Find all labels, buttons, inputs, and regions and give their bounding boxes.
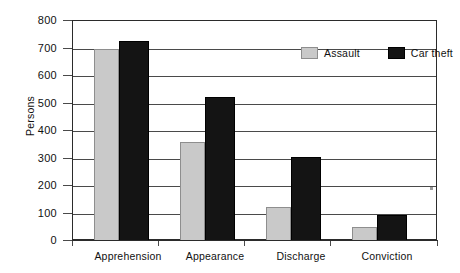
y-tick-mark-700 <box>63 48 72 49</box>
y-tick-label-0: 0 <box>0 235 57 246</box>
y-tick-mark-500 <box>63 103 72 104</box>
y-tick-mark-100 <box>63 213 72 214</box>
y-axis-line <box>72 20 73 241</box>
bar-car-theft-apprehension <box>119 41 149 241</box>
x-tick-mark-3 <box>330 241 331 246</box>
bar-assault-apprehension <box>94 49 119 242</box>
plot-area: Assault Car theft <box>72 20 437 240</box>
x-axis-line <box>72 240 438 241</box>
bar-assault-appearance <box>180 142 205 241</box>
assault-swatch-icon <box>301 47 318 59</box>
x-tick-mark-0 <box>72 241 73 246</box>
y-tick-label-200: 200 <box>0 180 57 191</box>
legend-item-car-theft: Car theft <box>388 47 453 59</box>
y-tick-mark-800 <box>63 20 72 21</box>
scan-artifact-speck <box>430 187 433 190</box>
legend-label-assault: Assault <box>324 47 360 59</box>
x-tick-mark-2 <box>244 241 245 246</box>
y-tick-mark-300 <box>63 158 72 159</box>
x-tick-mark-4 <box>437 241 438 246</box>
legend-item-assault: Assault <box>301 47 360 59</box>
bar-car-theft-discharge <box>291 157 321 241</box>
x-tick-mark-1 <box>158 241 159 246</box>
bar-chart: Assault Car theft 800 700 600 500 400 30… <box>0 0 460 273</box>
bar-car-theft-appearance <box>205 97 235 241</box>
y-tick-label-100: 100 <box>0 208 57 219</box>
y-tick-label-700: 700 <box>0 43 57 54</box>
legend-label-car-theft: Car theft <box>411 47 453 59</box>
y-tick-mark-0 <box>63 240 72 241</box>
y-tick-mark-400 <box>63 130 72 131</box>
car-theft-swatch-icon <box>388 47 405 59</box>
category-label-conviction: Conviction <box>327 250 447 262</box>
y-tick-mark-600 <box>63 75 72 76</box>
legend: Assault Car theft <box>301 44 453 62</box>
y-tick-label-800: 800 <box>0 15 57 26</box>
bar-car-theft-conviction <box>377 215 407 241</box>
y-axis-title: Persons <box>24 76 36 156</box>
bar-assault-discharge <box>266 207 291 241</box>
y-tick-mark-200 <box>63 185 72 186</box>
bar-assault-conviction <box>352 227 377 241</box>
